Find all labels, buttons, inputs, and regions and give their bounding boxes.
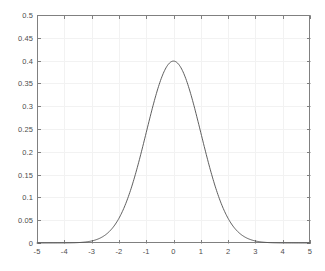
y-tick-label: 0.3 [0, 102, 33, 111]
normal-distribution-chart [0, 0, 325, 271]
x-tick-label: -1 [143, 247, 150, 256]
y-tick-label: 0.45 [0, 33, 33, 42]
x-tick-label: 4 [281, 247, 285, 256]
x-tick-label: 0 [171, 247, 175, 256]
y-tick-label: 0.25 [0, 125, 33, 134]
y-tick-label: 0 [0, 239, 33, 248]
figure-canvas: 00.050.10.150.20.250.30.350.40.450.5 -5-… [0, 0, 325, 271]
y-tick-label: 0.1 [0, 193, 33, 202]
y-tick-label: 0.05 [0, 216, 33, 225]
x-tick-label: -4 [61, 247, 68, 256]
x-tick-label: -2 [115, 247, 122, 256]
y-tick-label: 0.2 [0, 147, 33, 156]
x-tick-label: -5 [34, 247, 41, 256]
x-tick-label: 2 [226, 247, 230, 256]
grid-lines [38, 16, 310, 243]
x-tick-label: 1 [199, 247, 203, 256]
y-tick-label: 0.4 [0, 56, 33, 65]
x-tick-label: 5 [308, 247, 312, 256]
x-tick-label: 3 [253, 247, 257, 256]
y-tick-label: 0.35 [0, 79, 33, 88]
y-tick-label: 0.15 [0, 170, 33, 179]
x-tick-label: -3 [88, 247, 95, 256]
y-tick-label: 0.5 [0, 11, 33, 20]
